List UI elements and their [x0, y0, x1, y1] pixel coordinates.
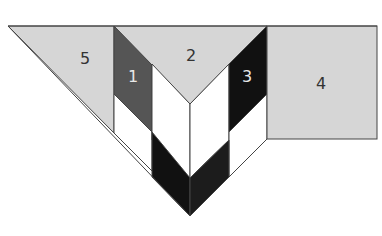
piece-3-label: 3 [242, 67, 252, 86]
piece-4-label: 4 [316, 74, 326, 93]
piece-2-label: 2 [186, 46, 196, 65]
piece-5-label: 5 [80, 49, 90, 68]
quilt-piecing-diagram: 5 1 2 3 4 [0, 0, 382, 236]
piece-1-label: 1 [128, 67, 138, 86]
